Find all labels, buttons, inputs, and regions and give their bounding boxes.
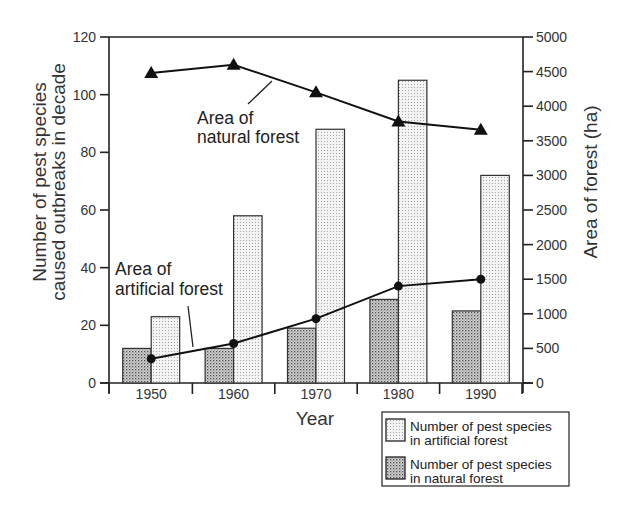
legend-label-natural-line1: Number of pest species [410, 457, 552, 472]
annotation-artificial-leader [188, 306, 193, 347]
bar-artificial-forest [234, 216, 263, 383]
y-left-tick-label: 20 [80, 317, 96, 333]
x-tick-label: 1960 [218, 386, 249, 402]
x-tick-label: 1980 [383, 386, 414, 402]
y-axis-right-title: Area of forest (ha) [580, 105, 601, 258]
bar-natural-forest [205, 348, 234, 383]
circle-marker-icon [229, 339, 238, 348]
annotation-artificial-line1: Area of [115, 259, 172, 279]
triangle-marker-icon [227, 58, 241, 70]
circle-marker-icon [394, 282, 403, 291]
y-right-tick-label: 5000 [536, 29, 567, 45]
y-left-tick-label: 0 [88, 375, 96, 391]
annotation-natural-forest: Area of natural forest [197, 81, 299, 147]
y-right-tick-label: 3000 [536, 167, 567, 183]
legend-label-artificial-line1: Number of pest species [410, 419, 552, 434]
y-axis-left-title: Number of pest species caused outbreaks … [29, 63, 69, 301]
y-right-tick-label: 3500 [536, 133, 567, 149]
y-left-tick-label: 100 [73, 87, 97, 103]
legend: Number of pest species in artificial for… [382, 412, 569, 486]
bars [123, 80, 510, 383]
legend-swatch-natural [386, 457, 405, 479]
y-left-tick-label: 60 [80, 202, 96, 218]
y-axis-right-ticks: 0500100015002000250030003500400045005000 [523, 29, 567, 391]
y-right-tick-label: 2500 [536, 202, 567, 218]
y-axis-right-title-text: Area of forest (ha) [580, 105, 601, 258]
y-left-tick-label: 80 [80, 144, 96, 160]
bar-natural-forest [123, 348, 152, 383]
x-tick-label: 1950 [136, 386, 167, 402]
y-right-tick-label: 4000 [536, 98, 567, 114]
annotation-natural-line1: Area of [197, 108, 254, 128]
bar-natural-forest [370, 299, 399, 383]
x-tick-label: 1970 [300, 386, 331, 402]
y-axis-left-ticks: 020406080100120 [73, 29, 109, 391]
y-left-tick-label: 40 [80, 260, 96, 276]
x-tick-label: 1990 [465, 386, 496, 402]
x-axis-title: Year [296, 408, 335, 429]
annotation-artificial-line2: artificial forest [115, 279, 223, 299]
y-right-tick-label: 0 [536, 375, 544, 391]
y-right-tick-label: 500 [536, 340, 560, 356]
circle-marker-icon [147, 354, 156, 363]
y-right-tick-label: 1500 [536, 271, 567, 287]
x-axis-ticks: 19501960197019801990 [109, 383, 522, 402]
pest-forest-chart: 020406080100120 050010001500200025003000… [0, 0, 630, 514]
circle-marker-icon [476, 275, 485, 284]
annotation-natural-line2: natural forest [197, 127, 299, 147]
y-right-tick-label: 2000 [536, 237, 567, 253]
annotation-natural-leader [248, 81, 272, 104]
y-right-tick-label: 1000 [536, 306, 567, 322]
y-right-tick-label: 4500 [536, 64, 567, 80]
legend-swatch-artificial [386, 419, 405, 441]
legend-label-natural-line2: in natural forest [410, 471, 503, 486]
y-axis-left-title-line1: Number of pest species [29, 82, 50, 282]
y-left-tick-label: 120 [73, 29, 97, 45]
y-axis-left-title-line2: caused outbreaks in decade [48, 63, 69, 301]
bar-natural-forest [452, 311, 481, 383]
bar-artificial-forest [316, 129, 345, 383]
circle-marker-icon [312, 314, 321, 323]
legend-label-artificial-line2: in artificial forest [410, 433, 508, 448]
bar-natural-forest [288, 328, 317, 383]
bar-artificial-forest [151, 317, 180, 383]
